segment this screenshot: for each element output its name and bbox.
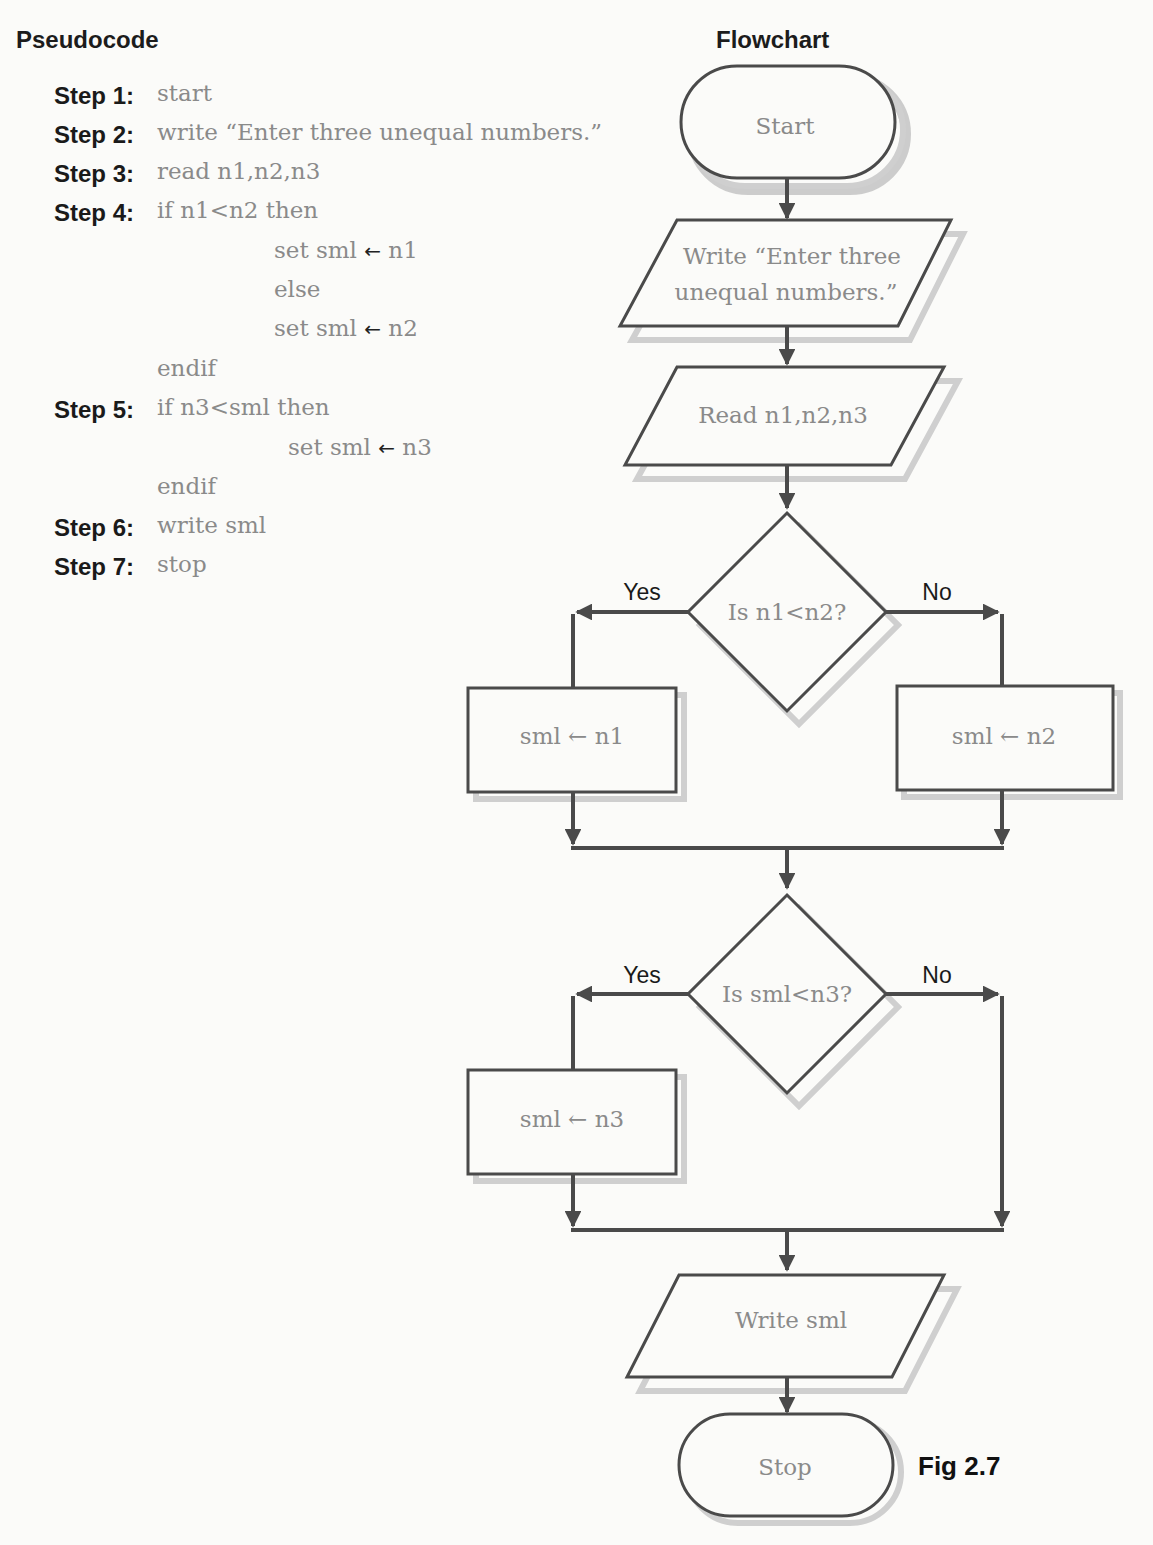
write-sml-label: Write sml: [735, 1307, 847, 1333]
decision2-no-label: No: [922, 962, 951, 988]
decision2-yes-label: Yes: [623, 962, 661, 988]
decision1-no-label: No: [922, 579, 951, 605]
decision1-label: Is n1<n2?: [728, 599, 847, 625]
figure-label: Fig 2.7: [918, 1451, 1000, 1482]
flowchart-diagram: Start Write “Enter three unequal numbers…: [0, 0, 1153, 1545]
decision2-label: Is sml<n3?: [722, 981, 852, 1007]
assign-n2-label: sml ← n2: [952, 723, 1056, 749]
read-label: Read n1,n2,n3: [698, 402, 868, 428]
write-prompt-label-2: unequal numbers.”: [675, 279, 898, 305]
assign-n1-label: sml ← n1: [520, 723, 624, 749]
start-label: Start: [756, 113, 816, 139]
write-prompt-label-1: Write “Enter three: [683, 243, 901, 269]
assign-n3-label: sml ← n3: [520, 1106, 624, 1132]
write-result-io: [627, 1275, 957, 1391]
stop-label: Stop: [758, 1454, 812, 1480]
decision1-yes-label: Yes: [623, 579, 661, 605]
